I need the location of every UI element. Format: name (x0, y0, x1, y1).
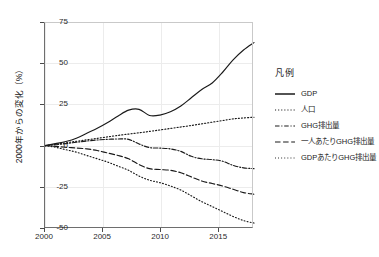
series-line (45, 146, 254, 195)
x-axis-tick-label: 2000 (27, 233, 61, 241)
series-line (45, 146, 254, 223)
legend-line-swatch (275, 105, 295, 115)
series-line (45, 43, 254, 146)
y-axis-tick-label: 25 (40, 100, 68, 108)
legend-line-swatch (275, 137, 295, 147)
y-axis-title: 2000年からの変化（%） (12, 47, 24, 181)
x-axis-tick-label: 2015 (201, 233, 235, 241)
legend-title: 凡例 (275, 66, 379, 79)
legend-item-1[interactable]: GDP (275, 86, 379, 102)
series-layer (45, 22, 254, 228)
series-line (45, 139, 254, 169)
x-axis-tick-label: 2005 (85, 233, 119, 241)
legend-item-label: GDP (301, 89, 317, 99)
series-line (45, 117, 254, 145)
legend-item-3[interactable]: GHG排出量 (275, 118, 379, 134)
legend-line-swatch (275, 121, 295, 131)
x-axis-tick-label: 2010 (143, 233, 177, 241)
legend-item-2[interactable]: 人口 (275, 102, 379, 118)
legend-line-swatch (275, 89, 295, 99)
legend: 凡例 GDP人口GHG排出量一人あたりGHG排出量GDPあたりGHG排出量 (275, 66, 379, 166)
y-axis-tick-label: 50 (40, 59, 68, 67)
legend-item-label: GDPあたりGHG排出量 (301, 153, 376, 163)
legend-items: GDP人口GHG排出量一人あたりGHG排出量GDPあたりGHG排出量 (275, 86, 379, 166)
legend-item-label: GHG排出量 (301, 121, 339, 131)
legend-item-5[interactable]: GDPあたりGHG排出量 (275, 150, 379, 166)
y-axis-tick-label: -25 (40, 183, 68, 191)
legend-item-4[interactable]: 一人あたりGHG排出量 (275, 134, 379, 150)
chart-figure: 7550250-25-502000200520102015 2000年からの変化… (0, 0, 379, 257)
legend-item-label: 一人あたりGHG排出量 (301, 137, 374, 147)
legend-item-label: 人口 (301, 105, 315, 115)
plot-area (44, 22, 253, 228)
legend-line-swatch (275, 153, 295, 163)
y-axis-tick-label: 75 (40, 18, 68, 26)
y-axis-tick-label: 0 (40, 142, 68, 150)
